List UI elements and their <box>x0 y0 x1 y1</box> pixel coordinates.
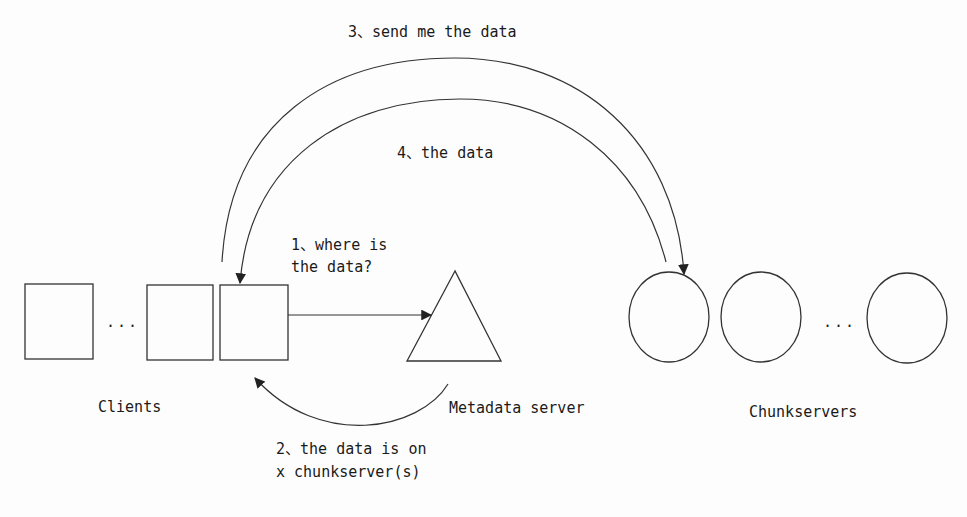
client-box-3 <box>220 285 288 360</box>
diagram-canvas: ... ... Clients Metadata server Chunkser… <box>0 0 967 517</box>
client-box-2 <box>147 285 213 360</box>
metadata-server-label: Metadata server <box>449 397 584 419</box>
chunkserver-circle-3 <box>867 273 947 363</box>
chunkserver-circle-1 <box>629 272 709 362</box>
edge-1-label-line2: the data? <box>291 256 372 278</box>
edge-4-label: 4、the data <box>397 142 493 164</box>
edge-2-arrow <box>255 378 448 425</box>
edge-2-label-line2: x chunkserver(s) <box>276 461 421 483</box>
clients-label: Clients <box>98 396 161 418</box>
chunkservers-label: Chunkservers <box>749 401 857 423</box>
edge-3-label: 3、send me the data <box>348 21 517 43</box>
edge-2-label-line1: 2、the data is on <box>276 438 426 460</box>
clients-ellipsis: ... <box>106 313 139 331</box>
metadata-server-triangle <box>407 271 501 361</box>
chunkserver-circle-2 <box>721 272 801 362</box>
diagram-svg <box>0 0 967 517</box>
client-box-1 <box>25 284 93 359</box>
chunkservers-ellipsis: ... <box>823 313 856 331</box>
edge-1-label-line1: 1、where is <box>291 234 387 256</box>
